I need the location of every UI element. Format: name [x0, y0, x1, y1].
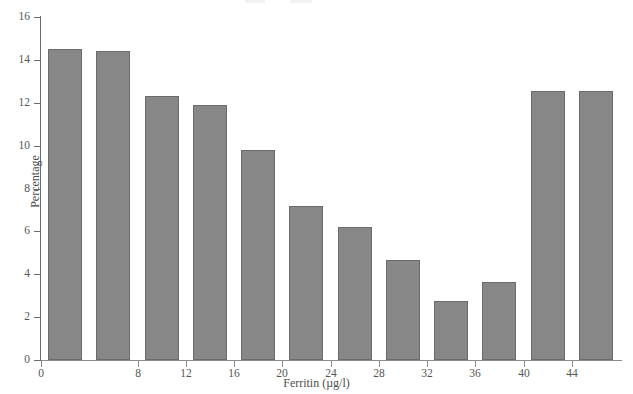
bar — [289, 206, 323, 360]
y-tick-label: 12 — [8, 97, 30, 109]
y-tick-mark — [34, 360, 41, 361]
bar — [579, 91, 613, 360]
bar — [338, 227, 372, 360]
bar — [96, 51, 130, 360]
y-tick-label: 0 — [8, 354, 30, 366]
bar — [48, 49, 82, 360]
y-tick-mark — [34, 274, 41, 275]
cropped-caption-remnant-b — [290, 0, 312, 3]
bar — [386, 260, 420, 360]
y-axis-title: Percentage — [29, 122, 42, 242]
bar — [434, 301, 468, 360]
bar — [193, 105, 227, 360]
y-tick-label: 14 — [8, 54, 30, 66]
y-tick-mark — [34, 317, 41, 318]
y-tick-label: 2 — [8, 311, 30, 323]
cropped-caption-remnant-a — [245, 0, 265, 3]
bar — [531, 91, 565, 360]
y-tick-mark — [34, 60, 41, 61]
y-tick-label: 4 — [8, 268, 30, 280]
bar — [241, 150, 275, 360]
y-tick-label: 16 — [8, 11, 30, 23]
y-tick-mark — [34, 103, 41, 104]
x-axis-title: Ferritin (µg/l) — [0, 376, 633, 390]
y-tick-label: 6 — [8, 225, 30, 237]
bar — [145, 96, 179, 360]
y-tick-label: 10 — [8, 140, 30, 152]
bar — [482, 282, 516, 360]
bar-chart: 0246810121416 08121620242832364044 Ferri… — [0, 0, 633, 394]
y-tick-mark — [34, 17, 41, 18]
